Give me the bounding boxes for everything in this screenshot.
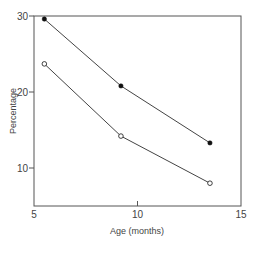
line-chart: 51015102030 Age (months) Percentage [0,0,256,277]
y-tick-label: 10 [17,163,29,174]
y-tick-label: 30 [17,11,29,22]
data-series [42,17,212,186]
series-line [44,64,210,183]
plot-border [34,16,241,206]
x-tick-label: 10 [132,209,144,220]
plot-frame [34,16,241,206]
open-circle-marker [119,134,124,139]
open-circle-marker [208,181,213,186]
series-line [44,19,210,143]
filled-circle-marker [119,84,123,88]
filled-circle-marker [42,17,46,21]
y-axis-label: Percentage [8,88,18,134]
open-circle-marker [42,62,47,67]
y-tick-label: 20 [17,87,29,98]
filled-circle-marker [208,141,212,145]
x-axis-label: Age (months) [110,226,164,236]
x-tick-label: 15 [235,209,247,220]
x-tick-label: 5 [31,209,37,220]
axis-ticks: 51015102030 [17,11,247,221]
